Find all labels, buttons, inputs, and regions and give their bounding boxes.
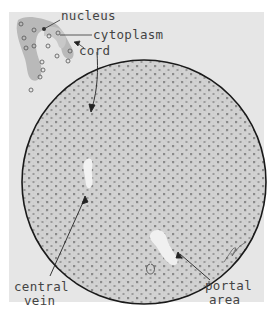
liver-lobule-diagram: [0, 0, 278, 314]
label-portal-area-2: area: [209, 293, 240, 306]
label-cord: cord: [79, 44, 110, 57]
label-nucleus: nucleus: [61, 9, 116, 22]
label-central-vein-2: vein: [24, 294, 55, 307]
label-portal-area-1: portal: [205, 279, 252, 292]
lobule-section: [20, 60, 270, 310]
label-cytoplasm: cytoplasm: [93, 28, 163, 41]
label-central-vein-1: central: [14, 280, 69, 293]
